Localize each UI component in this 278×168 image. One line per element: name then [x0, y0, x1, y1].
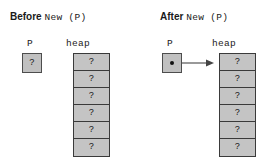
- panel-before-heap-label: heap: [66, 38, 90, 49]
- variable-value-before: ?: [23, 54, 41, 72]
- heap-cell: ?: [220, 88, 255, 105]
- heap-cell: ?: [74, 88, 109, 105]
- variable-box-p-after: [162, 53, 182, 73]
- panel-before-variable-label: P: [27, 38, 33, 49]
- heap-cell: ?: [220, 139, 255, 156]
- panel-before-title: Before New (P): [10, 11, 86, 24]
- panel-after-title-code: New (P): [186, 12, 228, 23]
- panel-before-title-code: New (P): [44, 12, 86, 23]
- panel-after: After New (P) P heap ? ? ? ? ? ?: [140, 0, 278, 168]
- pointer-dot-icon: [170, 61, 174, 65]
- panel-after-heap-label: heap: [212, 38, 236, 49]
- panel-after-title-word: After: [160, 11, 183, 22]
- heap-cell: ?: [220, 54, 255, 71]
- heap-column-after: ? ? ? ? ? ?: [219, 53, 256, 157]
- figure-canvas: Before New (P) P heap ? ? ? ? ? ? ? Afte…: [0, 0, 278, 168]
- heap-cell: ?: [220, 122, 255, 139]
- panel-before: Before New (P) P heap ? ? ? ? ? ? ?: [0, 0, 140, 168]
- pointer-arrow-icon: [182, 57, 214, 69]
- heap-cell: ?: [74, 54, 109, 71]
- heap-column-before: ? ? ? ? ? ?: [73, 53, 110, 157]
- heap-cell: ?: [74, 71, 109, 88]
- panel-after-variable-label: P: [167, 38, 173, 49]
- heap-cell: ?: [220, 105, 255, 122]
- heap-cell: ?: [74, 122, 109, 139]
- heap-cell: ?: [74, 105, 109, 122]
- heap-cell: ?: [220, 71, 255, 88]
- heap-cell: ?: [74, 139, 109, 156]
- variable-box-p-before: ?: [22, 53, 42, 73]
- panel-before-title-word: Before: [10, 11, 42, 22]
- panel-after-title: After New (P): [160, 11, 228, 24]
